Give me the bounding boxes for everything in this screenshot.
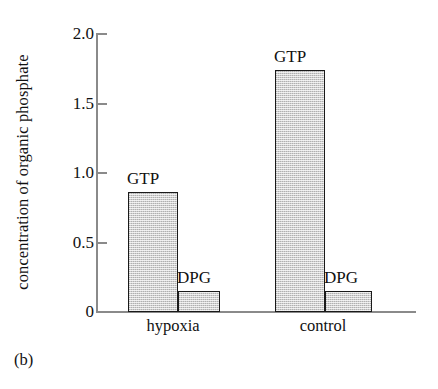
bar-label-control-dpg: DPG: [324, 269, 358, 286]
bar-label-hypoxia-dpg: DPG: [177, 269, 211, 286]
x-axis-group-label-hypoxia: hypoxia: [113, 318, 233, 335]
bar-label-control-gtp: GTP: [274, 48, 306, 65]
x-axis-group-label-control: control: [263, 318, 383, 335]
figure-caption: (b): [14, 352, 33, 369]
bar-label-hypoxia-gtp: GTP: [127, 170, 159, 187]
figure-panel-b: concentration of organic phosphate 2.0 1…: [0, 0, 438, 389]
bar-control-dpg: [325, 291, 372, 312]
bar-control-gtp: [275, 70, 325, 312]
bar-hypoxia-gtp: [128, 192, 178, 312]
bar-hypoxia-dpg: [178, 291, 220, 312]
